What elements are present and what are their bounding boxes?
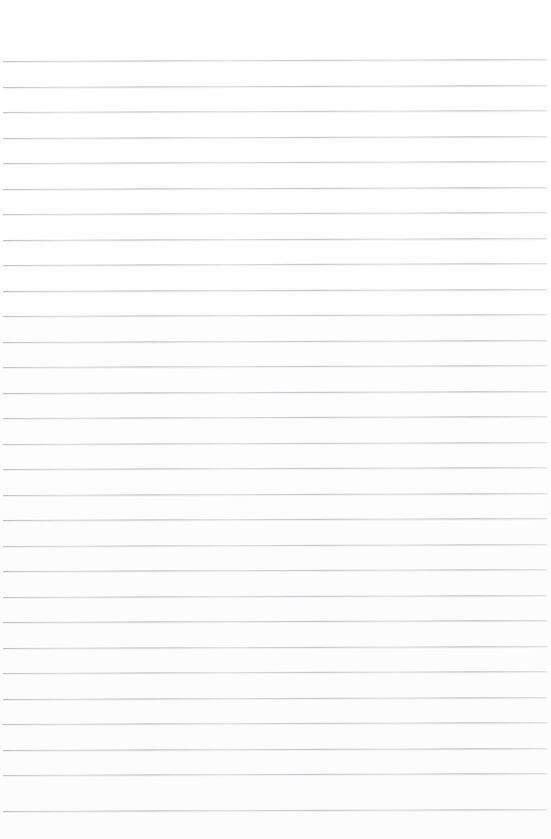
ruled-line bbox=[3, 391, 547, 394]
ruled-line bbox=[3, 314, 547, 317]
ruled-line bbox=[3, 59, 547, 62]
ruled-line bbox=[3, 518, 547, 521]
ruled-line bbox=[3, 365, 547, 368]
ruled-line bbox=[3, 263, 547, 266]
ruled-line bbox=[3, 238, 547, 241]
ruled-line bbox=[3, 671, 547, 674]
ruled-line bbox=[3, 809, 547, 812]
ruled-line bbox=[3, 493, 547, 496]
ruled-line bbox=[3, 340, 547, 343]
ruled-line bbox=[3, 748, 547, 751]
ruled-line bbox=[3, 620, 547, 623]
ruled-line bbox=[3, 136, 547, 139]
ruled-line bbox=[3, 595, 547, 598]
ruled-line bbox=[3, 569, 547, 572]
ruled-line bbox=[3, 416, 547, 419]
ruled-line bbox=[3, 544, 547, 547]
ruled-line bbox=[3, 212, 547, 215]
ruled-line bbox=[3, 161, 547, 164]
ruled-line bbox=[3, 289, 547, 292]
ruled-line bbox=[3, 773, 547, 776]
ruled-line bbox=[3, 722, 547, 725]
ruled-line bbox=[3, 187, 547, 190]
ruled-lines-layer bbox=[0, 0, 551, 839]
ruled-line bbox=[3, 442, 547, 445]
ruled-line bbox=[3, 646, 547, 649]
scanned-page bbox=[0, 0, 551, 839]
ruled-line bbox=[3, 467, 547, 470]
ruled-line bbox=[3, 110, 547, 113]
ruled-line bbox=[3, 85, 547, 88]
ruled-line bbox=[3, 697, 547, 700]
